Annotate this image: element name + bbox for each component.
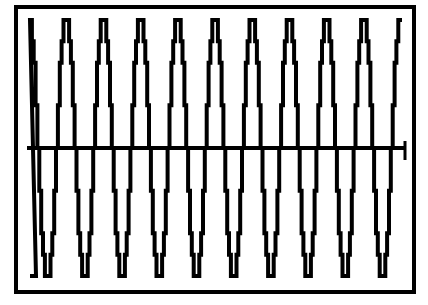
oscilloscope-display	[0, 0, 428, 305]
waveform-plot	[0, 0, 428, 305]
